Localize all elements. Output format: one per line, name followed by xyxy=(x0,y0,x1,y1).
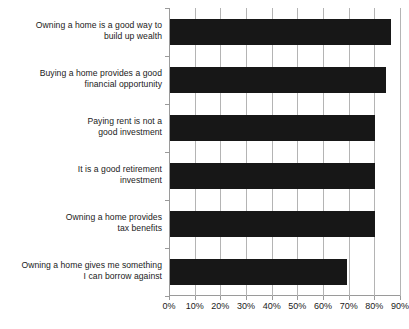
gridline-50% xyxy=(297,8,298,296)
y-tick-mark xyxy=(165,296,169,297)
x-tick-label: 10% xyxy=(186,300,204,312)
bar xyxy=(170,19,391,45)
x-tick-label: 20% xyxy=(211,300,229,312)
x-tick-label: 90% xyxy=(391,300,409,312)
bar xyxy=(170,259,347,285)
x-tick-label: 80% xyxy=(365,300,383,312)
x-axis-tick-labels: 0%10%20%30%40%50%60%70%80%90% xyxy=(169,300,409,320)
category-label: Paying rent is not a good investment xyxy=(0,116,162,139)
category-label: It is a good retirement investment xyxy=(0,164,162,187)
x-tick-label: 30% xyxy=(237,300,255,312)
gridline-10% xyxy=(195,8,196,296)
x-tick-label: 60% xyxy=(314,300,332,312)
bar xyxy=(170,115,375,141)
y-tick-mark xyxy=(165,8,169,9)
category-label: Buying a home provides a good financial … xyxy=(0,68,162,91)
x-tick-label: 0% xyxy=(162,300,175,312)
y-tick-mark xyxy=(165,248,169,249)
category-label: Owning a home is a good way to build up … xyxy=(0,20,162,43)
y-tick-mark xyxy=(165,56,169,57)
bar xyxy=(170,163,375,189)
bar xyxy=(170,67,386,93)
gridline-20% xyxy=(220,8,221,296)
x-axis-line xyxy=(169,295,400,296)
plot-area xyxy=(169,8,400,296)
bar xyxy=(170,211,375,237)
category-label-column: Owning a home is a good way to build up … xyxy=(0,0,166,296)
gridline-80% xyxy=(374,8,375,296)
y-tick-mark xyxy=(165,152,169,153)
gridline-40% xyxy=(272,8,273,296)
y-tick-mark xyxy=(165,104,169,105)
gridline-70% xyxy=(349,8,350,296)
bar-chart: Owning a home is a good way to build up … xyxy=(0,0,409,329)
y-axis-line xyxy=(169,8,170,296)
category-label: Owning a home provides tax benefits xyxy=(0,212,162,235)
gridline-90% xyxy=(400,8,401,296)
category-label: Owning a home gives me something I can b… xyxy=(0,260,162,283)
gridline-60% xyxy=(323,8,324,296)
gridline-30% xyxy=(246,8,247,296)
y-tick-mark xyxy=(165,200,169,201)
x-tick-label: 50% xyxy=(288,300,306,312)
x-tick-label: 70% xyxy=(340,300,358,312)
x-tick-label: 40% xyxy=(263,300,281,312)
